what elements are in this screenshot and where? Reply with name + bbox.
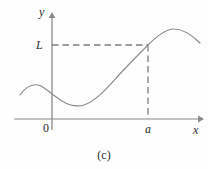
y-axis-label: y <box>39 6 44 18</box>
x-point-label: a <box>145 123 151 135</box>
x-axis-label: x <box>193 124 198 136</box>
y-axis <box>49 12 56 130</box>
figure-container: y x L a 0 (c) <box>0 0 208 169</box>
graph-canvas <box>0 0 208 169</box>
y-axis-arrowhead <box>49 12 56 18</box>
origin-label: 0 <box>43 122 49 134</box>
x-axis-arrowhead <box>198 115 204 122</box>
figure-caption: (c) <box>0 149 208 161</box>
limit-value-label: L <box>36 39 43 51</box>
function-curve <box>20 29 200 106</box>
